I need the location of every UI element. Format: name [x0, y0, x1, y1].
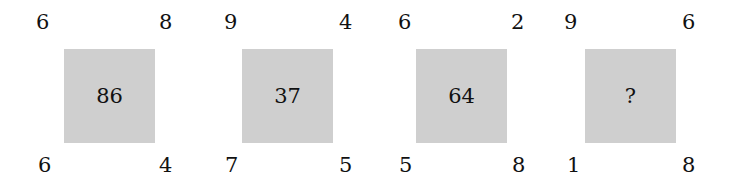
block-1-square: 86: [64, 49, 155, 143]
number-puzzle: 6 8 86 6 4 9 4 37 7 5 6 2 64 5 8 9 6 ? 1…: [0, 0, 733, 188]
block-2-center-number: 37: [242, 86, 333, 107]
block-1-top-right-number: 8: [159, 12, 172, 33]
block-3-square: 64: [416, 49, 507, 143]
block-4-top-left-number: 9: [564, 12, 577, 33]
block-2-bottom-left-number: 7: [225, 155, 238, 176]
block-4-bottom-right-number: 8: [682, 155, 695, 176]
block-1-top-left-number: 6: [36, 12, 49, 33]
block-3-center-number: 64: [416, 86, 507, 107]
block-2-square: 37: [242, 49, 333, 143]
block-4-top-right-number: 6: [682, 12, 695, 33]
block-3-top-right-number: 2: [511, 12, 524, 33]
block-3-top-left-number: 6: [398, 12, 411, 33]
block-1-bottom-left-number: 6: [38, 155, 51, 176]
block-1-center-number: 86: [64, 86, 155, 107]
block-3-bottom-right-number: 8: [512, 155, 525, 176]
block-3-bottom-left-number: 5: [399, 155, 412, 176]
block-2-bottom-right-number: 5: [339, 155, 352, 176]
block-4-square: ?: [585, 49, 676, 143]
block-2-top-right-number: 4: [339, 12, 352, 33]
block-1-bottom-right-number: 4: [159, 155, 172, 176]
block-4-bottom-left-number: 1: [567, 155, 580, 176]
block-4-unknown-center: ?: [585, 86, 676, 107]
block-2-top-left-number: 9: [224, 12, 237, 33]
